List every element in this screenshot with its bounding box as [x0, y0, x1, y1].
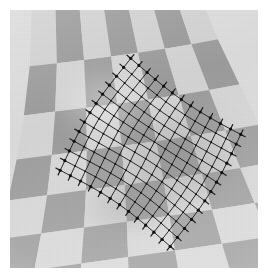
mesh-boundary-node [95, 102, 98, 105]
photo-canvas [10, 10, 258, 268]
mesh-node [143, 208, 145, 210]
mesh-node [124, 82, 126, 84]
mesh-boundary-node [220, 171, 223, 174]
mesh-node [135, 176, 137, 178]
mesh-node [125, 194, 127, 196]
mesh-node [93, 151, 95, 153]
mesh-boundary-node [235, 142, 238, 145]
mesh-boundary-node [108, 84, 111, 87]
mesh-node [88, 136, 90, 138]
mesh-node [149, 199, 151, 201]
mesh-node [191, 153, 193, 155]
mesh-node [156, 94, 158, 96]
mesh-node [83, 146, 85, 148]
mesh-boundary-node [137, 64, 140, 67]
mesh-node [113, 139, 115, 141]
mesh-boundary-node [79, 179, 82, 182]
mesh-node [168, 229, 170, 231]
mesh-node [143, 134, 145, 136]
mesh-node [174, 204, 176, 206]
mesh-node [131, 73, 133, 75]
mesh-node [158, 206, 160, 208]
mesh-boundary-node [199, 110, 202, 113]
mesh-node [160, 156, 162, 158]
mesh-node [117, 130, 119, 132]
mesh-node [181, 171, 183, 173]
mesh-node [169, 116, 171, 118]
mesh-node [196, 168, 198, 170]
mesh-node [152, 215, 154, 217]
mesh-boundary-node [190, 218, 193, 221]
mesh-node [74, 165, 76, 167]
mesh-node [166, 172, 168, 174]
figure-root [0, 0, 271, 280]
mesh-node [184, 114, 186, 116]
cloth-lighting [10, 10, 258, 268]
mesh-node [134, 151, 136, 153]
mesh-node [225, 138, 227, 140]
mesh-node [160, 222, 162, 224]
mesh-boundary-node [169, 245, 172, 248]
mesh-boundary-node [215, 181, 218, 184]
mesh-node [206, 150, 208, 152]
mesh-node [114, 163, 116, 165]
mesh-boundary-node [115, 75, 118, 78]
mesh-boundary-node [69, 174, 72, 177]
mesh-node [115, 188, 117, 190]
mesh-boundary-node [83, 120, 86, 123]
mesh-node [153, 118, 155, 120]
mesh-node [210, 141, 212, 143]
mesh-node [95, 176, 97, 178]
mesh-boundary-node [197, 209, 200, 212]
mesh-node [122, 121, 124, 123]
mesh-node [201, 184, 203, 186]
mesh-node [148, 126, 150, 128]
mesh-node [159, 109, 161, 111]
mesh-node [120, 178, 122, 180]
mesh-node [147, 87, 149, 89]
mesh-node [180, 195, 182, 197]
mesh-boundary-node [77, 130, 80, 133]
mesh-node [206, 175, 208, 177]
mesh-node [125, 169, 127, 171]
mesh-node [119, 154, 121, 156]
mesh-node [134, 104, 136, 106]
mesh-node [176, 179, 178, 181]
mesh-node [127, 136, 129, 138]
mesh-node [140, 167, 142, 169]
mesh-node [110, 100, 112, 102]
mesh-boundary-node [171, 91, 174, 94]
mesh-node [113, 115, 115, 117]
mesh-boundary-node [229, 127, 232, 130]
mesh-node [216, 156, 218, 158]
mesh-boundary-node [183, 227, 186, 230]
mesh-node [195, 193, 197, 195]
mesh-node [189, 129, 191, 131]
mesh-node [93, 127, 95, 129]
mesh-node [132, 128, 134, 130]
mesh-boundary-node [99, 191, 102, 194]
mesh-boundary-node [59, 169, 62, 172]
mesh-boundary-node [219, 122, 222, 125]
mesh-node [138, 119, 140, 121]
mesh-node [184, 138, 186, 140]
mesh-boundary-node [88, 111, 91, 114]
mesh-node [138, 143, 140, 145]
mesh-node [175, 220, 177, 222]
mesh-node [161, 181, 163, 183]
mesh-node [175, 155, 177, 157]
mesh-node [108, 148, 110, 150]
mesh-boundary-node [180, 98, 183, 101]
mesh-boundary-node [152, 231, 155, 234]
mesh-node [105, 182, 107, 184]
mesh-boundary-node [162, 85, 165, 88]
mesh-node [151, 174, 153, 176]
mesh-node [163, 125, 165, 127]
mesh-node [143, 111, 145, 113]
mesh-node [119, 106, 121, 108]
mesh-boundary-node [239, 133, 242, 136]
mesh-node [200, 135, 202, 137]
mesh-node [139, 80, 141, 82]
mesh-node [102, 133, 104, 135]
mesh-boundary-node [203, 199, 206, 202]
